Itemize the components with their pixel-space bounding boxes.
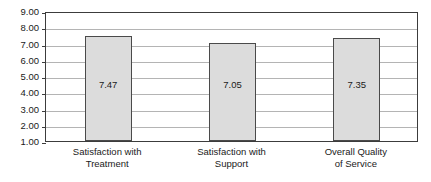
- x-axis-category-labels: Satisfaction with Treatment Satisfaction…: [45, 146, 418, 180]
- x-axis-category-label: Satisfaction with Support: [169, 146, 293, 170]
- y-axis-tick-label: 1.00: [0, 137, 39, 147]
- y-axis-tickmark: [42, 111, 46, 112]
- y-axis-tick-label: 9.00: [0, 7, 39, 17]
- bar-value-label: 7.47: [85, 79, 132, 90]
- category-label-line: of Service: [294, 158, 418, 170]
- category-label-line: Satisfaction with: [169, 146, 293, 158]
- y-axis-tick-label: 5.00: [0, 72, 39, 82]
- y-axis-tick-label: 3.00: [0, 105, 39, 115]
- category-label-line: Treatment: [45, 158, 169, 170]
- plot-area: 7.47 7.05 7.35: [45, 12, 418, 142]
- y-axis-tickmark: [42, 29, 46, 30]
- category-label-line: Satisfaction with: [45, 146, 169, 158]
- y-axis-tick-label: 8.00: [0, 23, 39, 33]
- category-label-line: Support: [169, 158, 293, 170]
- y-axis-tickmark: [42, 94, 46, 95]
- bar-value-label: 7.35: [333, 79, 380, 90]
- bar-chart: 9.00 8.00 7.00 6.00 5.00 4.00 3.00 2.00 …: [0, 0, 431, 182]
- gridline: [46, 29, 417, 30]
- x-axis-category-label: Overall Quality of Service: [294, 146, 418, 170]
- y-axis-tickmark: [42, 46, 46, 47]
- bar-value-label: 7.05: [209, 79, 256, 90]
- y-axis-tickmark: [42, 13, 46, 14]
- x-axis-category-label: Satisfaction with Treatment: [45, 146, 169, 170]
- y-axis-tickmark: [42, 127, 46, 128]
- y-axis: 9.00 8.00 7.00 6.00 5.00 4.00 3.00 2.00 …: [0, 0, 44, 182]
- category-label-line: Overall Quality: [294, 146, 418, 158]
- y-axis-tick-label: 2.00: [0, 121, 39, 131]
- y-axis-tick-label: 4.00: [0, 88, 39, 98]
- y-axis-tickmark: [42, 143, 46, 144]
- y-axis-tickmark: [42, 78, 46, 79]
- bar-satisfaction-with-support[interactable]: [209, 43, 256, 141]
- y-axis-tick-label: 6.00: [0, 56, 39, 66]
- y-axis-tick-label: 7.00: [0, 40, 39, 50]
- y-axis-tickmark: [42, 62, 46, 63]
